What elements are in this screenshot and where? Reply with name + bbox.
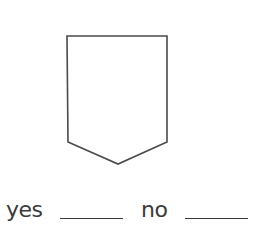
yes-label: yes: [6, 197, 43, 223]
no-label: no: [141, 197, 167, 223]
yes-answer-blank[interactable]: [60, 218, 123, 219]
pentagon-shape: [0, 0, 253, 229]
answer-row: yes no: [0, 197, 253, 227]
pentagon-outline: [67, 36, 167, 164]
no-answer-blank[interactable]: [185, 218, 248, 219]
